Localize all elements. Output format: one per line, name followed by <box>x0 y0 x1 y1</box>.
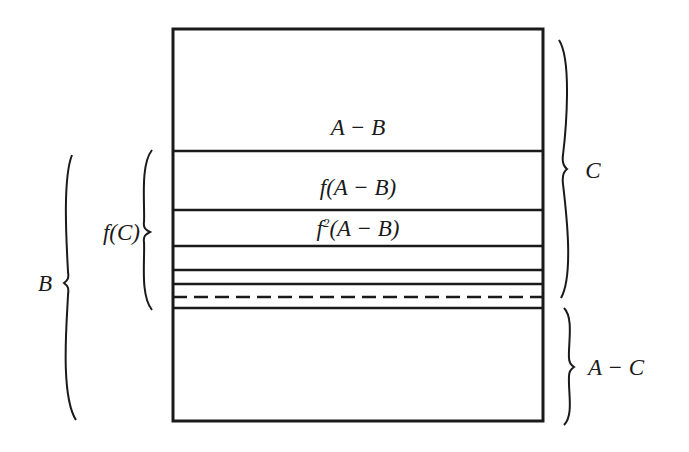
label-c: C <box>585 158 601 183</box>
label-b: B <box>38 271 52 296</box>
brace-a-minus-c <box>564 308 574 425</box>
brace-f-c <box>144 150 152 310</box>
brace-c <box>559 40 568 298</box>
label-a-minus-b: A − B <box>329 115 386 140</box>
label-f-a-minus-b: f(A − B) <box>320 175 396 200</box>
label-f2-a-minus-b: f2(A − B) <box>317 215 400 241</box>
label-f2-suffix: (A − B) <box>329 216 399 241</box>
label-a-minus-c: A − C <box>586 355 645 380</box>
label-f-c: f(C) <box>103 220 140 245</box>
brace-b <box>64 155 76 420</box>
set-decomposition-diagram: A − B f(A − B) f2(A − B) f(C) B C A − C <box>0 0 689 452</box>
